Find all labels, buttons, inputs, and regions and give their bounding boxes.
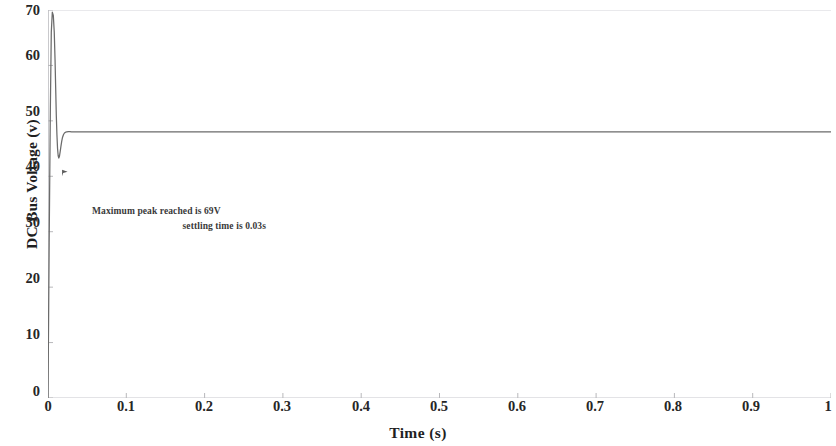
y-tick-label-10: 10 (0, 326, 40, 343)
y-tick-label-50: 50 (0, 103, 40, 120)
x-tick-label-1: 1 (798, 398, 836, 415)
x-tick-label-0.8: 0.8 (643, 398, 703, 415)
y-tick-label-40: 40 (0, 158, 40, 175)
y-tick-label-30: 30 (0, 214, 40, 231)
dip-arrow-marker (62, 170, 67, 177)
y-tick-label-20: 20 (0, 270, 40, 287)
x-tick-label-0.3: 0.3 (252, 398, 312, 415)
x-tick-label-0.2: 0.2 (174, 398, 234, 415)
x-tick-label-0.1: 0.1 (96, 398, 156, 415)
annotation-line-1: Maximum peak reached is 69V (92, 204, 272, 219)
x-axis-title: Time (s) (0, 424, 836, 442)
x-tick-label-0.9: 0.9 (721, 398, 781, 415)
x-tick-label-0.7: 0.7 (565, 398, 625, 415)
x-tick-label-0: 0 (18, 398, 78, 415)
x-tick-label-0.6: 0.6 (487, 398, 547, 415)
y-axis-title: DC Bus Voltage (v) (23, 34, 41, 334)
annotation-block: Maximum peak reached is 69V settling tim… (92, 204, 272, 234)
x-tick-label-0.4: 0.4 (331, 398, 391, 415)
y-tick-label-60: 60 (0, 47, 40, 64)
y-tick-label-70: 70 (0, 2, 40, 19)
chart-figure: DC Bus Voltage (v) 70 60 50 40 30 20 10 … (0, 0, 836, 446)
annotation-line-2: settling time is 0.03s (92, 219, 272, 234)
x-tick-label-0.5: 0.5 (409, 398, 469, 415)
